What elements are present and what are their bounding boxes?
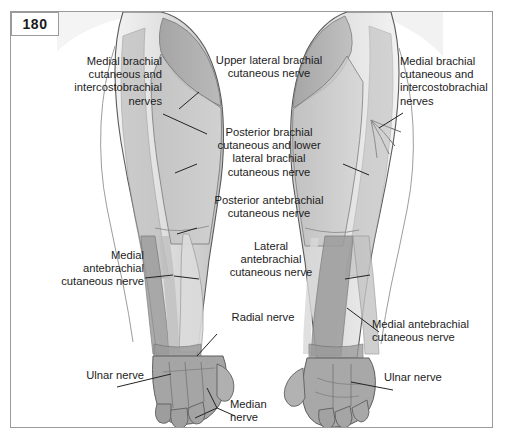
label-medial-brachial-cutaneous-left: Medial brachial cutaneous and intercosto… [24, 55, 162, 108]
figure-page: 180 [0, 0, 514, 447]
page-number-badge: 180 [11, 12, 59, 36]
label-upper-lateral-brachial-cutaneous: Upper lateral brachial cutaneous nerve [196, 54, 342, 80]
label-median-nerve: Median nerve [230, 398, 294, 424]
label-lateral-antebrachial-cutaneous: Lateral antebrachial cutaneous nerve [200, 240, 342, 280]
label-ulnar-nerve-left: Ulnar nerve [56, 369, 144, 382]
label-medial-antebrachial-cutaneous-left: Medial antebrachial cutaneous nerve [12, 249, 144, 289]
page-number-value: 180 [23, 16, 48, 32]
label-ulnar-nerve-right: Ulnar nerve [384, 371, 462, 384]
label-posterior-antebrachial-cutaneous: Posterior antebrachial cutaneous nerve [196, 194, 342, 220]
label-medial-brachial-cutaneous-right: Medial brachial cutaneous and intercosto… [400, 55, 504, 108]
label-posterior-brachial-cutaneous: Posterior brachial cutaneous and lower l… [196, 126, 342, 179]
hand-palmar [284, 358, 375, 427]
label-medial-antebrachial-cutaneous-right: Medial antebrachial cutaneous nerve [372, 318, 500, 344]
label-radial-nerve: Radial nerve [208, 311, 318, 324]
hand-dorsal [153, 356, 234, 427]
